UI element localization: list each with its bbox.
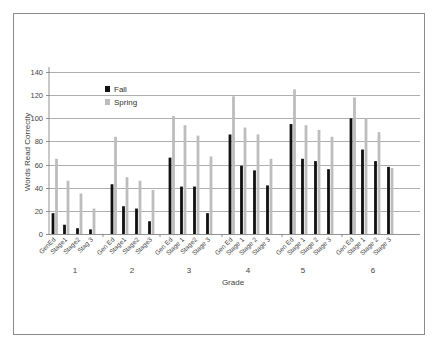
legend: Fall Spring bbox=[105, 85, 137, 107]
bar-fall bbox=[148, 221, 151, 234]
y-axis-ticks: 020406080100120140 bbox=[30, 68, 49, 239]
bar-fall bbox=[374, 161, 377, 234]
bar-spring bbox=[391, 168, 394, 234]
bar-fall bbox=[193, 187, 196, 234]
bar-spring bbox=[139, 181, 142, 234]
bar-spring bbox=[197, 136, 200, 234]
bar-fall bbox=[253, 170, 256, 234]
grouped-bar-chart: 020406080100120140 GenEdStage1Stage2Stag… bbox=[0, 0, 437, 350]
bar-fall bbox=[169, 158, 172, 234]
bar-spring bbox=[232, 96, 235, 234]
bar-fall bbox=[206, 213, 209, 234]
bar-spring bbox=[293, 89, 296, 234]
bar-spring bbox=[365, 118, 368, 234]
bar-fall bbox=[240, 166, 243, 234]
bar-spring bbox=[152, 190, 155, 234]
bar-spring bbox=[184, 125, 187, 234]
y-tick-label: 20 bbox=[35, 207, 43, 216]
bar-fall bbox=[314, 161, 317, 234]
bar-spring bbox=[172, 116, 175, 234]
y-tick-label: 40 bbox=[35, 184, 43, 193]
bar-spring bbox=[318, 130, 321, 234]
bar-spring bbox=[244, 128, 247, 234]
bar-spring bbox=[80, 194, 83, 235]
bar-fall bbox=[111, 184, 114, 234]
bar-fall bbox=[135, 209, 138, 234]
bars bbox=[52, 89, 394, 234]
bar-spring bbox=[126, 177, 129, 234]
bar-fall bbox=[63, 225, 66, 234]
bar-fall bbox=[350, 118, 353, 234]
bar-spring bbox=[270, 159, 273, 234]
y-tick-label: 140 bbox=[30, 68, 43, 77]
bar-spring bbox=[353, 97, 356, 234]
grade-label: 2 bbox=[130, 266, 135, 275]
grade-label: 1 bbox=[73, 266, 78, 275]
bar-spring bbox=[114, 137, 117, 234]
x-axis-title: Grade bbox=[222, 278, 245, 287]
legend-spring-swatch bbox=[105, 99, 110, 105]
grade-label: 6 bbox=[371, 266, 376, 275]
grade-label: 3 bbox=[187, 266, 192, 275]
bar-fall bbox=[327, 169, 330, 234]
bar-spring bbox=[305, 125, 308, 234]
bar-spring bbox=[210, 156, 213, 234]
bar-fall bbox=[122, 206, 125, 234]
y-tick-label: 0 bbox=[39, 230, 43, 239]
legend-fall-swatch bbox=[105, 86, 110, 92]
bar-fall bbox=[89, 229, 92, 234]
bar-fall bbox=[229, 134, 232, 234]
bar-spring bbox=[67, 181, 70, 234]
bar-fall bbox=[361, 150, 364, 234]
bar-spring bbox=[93, 209, 96, 234]
y-tick-label: 120 bbox=[30, 91, 43, 100]
bar-fall bbox=[266, 185, 269, 234]
bar-fall bbox=[301, 159, 304, 234]
y-tick-label: 80 bbox=[35, 137, 43, 146]
bar-spring bbox=[55, 159, 58, 234]
legend-spring-label: Spring bbox=[114, 98, 137, 107]
x-axis-category-labels: GenEdStage1Stage2Stag 3Gen EdStage1Stage… bbox=[37, 234, 393, 257]
y-tick-label: 60 bbox=[35, 161, 43, 170]
y-tick-label: 100 bbox=[30, 114, 43, 123]
grade-label: 5 bbox=[301, 266, 306, 275]
grade-group-labels: 123456 bbox=[73, 266, 376, 275]
bar-fall bbox=[290, 124, 293, 234]
bar-fall bbox=[76, 228, 79, 234]
bar-fall bbox=[180, 187, 183, 234]
bar-spring bbox=[378, 132, 381, 234]
y-axis-title: Words Read Correctly bbox=[23, 113, 32, 192]
grade-label: 4 bbox=[246, 266, 251, 275]
legend-fall-label: Fall bbox=[114, 85, 127, 94]
bar-fall bbox=[387, 167, 390, 234]
bar-fall bbox=[52, 213, 55, 234]
bar-spring bbox=[331, 137, 334, 234]
bar-spring bbox=[257, 134, 260, 234]
